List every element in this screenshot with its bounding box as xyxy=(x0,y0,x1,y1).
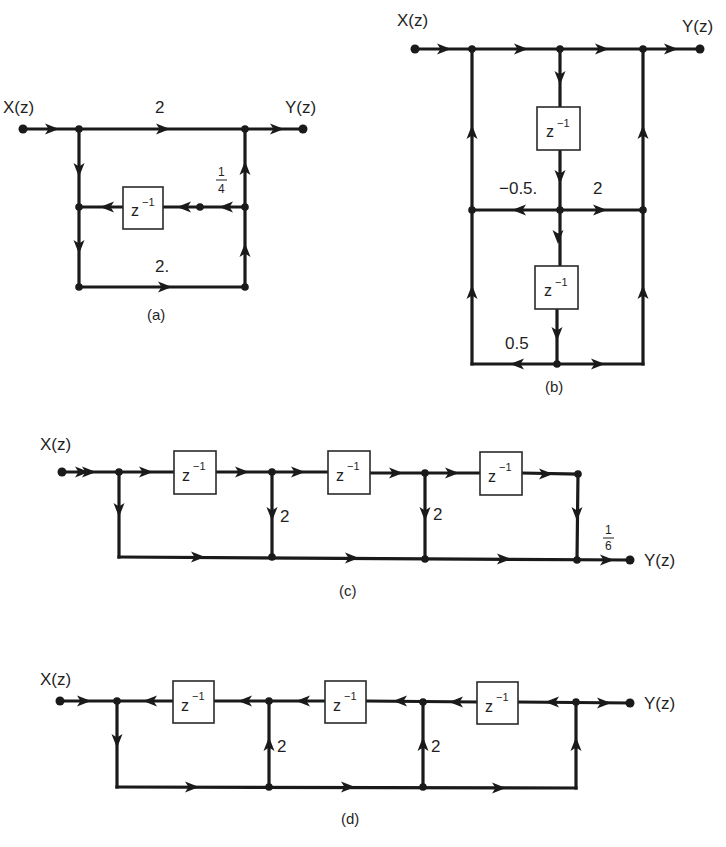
input-label: X(z) xyxy=(3,98,34,117)
input-label: X(z) xyxy=(397,11,428,30)
svg-text:−1: −1 xyxy=(193,460,206,472)
delay-block-b2: z −1 xyxy=(535,266,578,309)
svg-text:z: z xyxy=(333,697,341,714)
gain-label: 2 xyxy=(155,98,164,117)
svg-text:z: z xyxy=(544,282,552,299)
branch-node xyxy=(574,470,582,478)
branch-node xyxy=(75,283,83,291)
branch-node xyxy=(113,697,121,705)
branch-node xyxy=(196,203,204,211)
output-label: Y(z) xyxy=(285,98,316,117)
output-node xyxy=(626,699,635,708)
svg-text:−1: −1 xyxy=(555,276,568,288)
diagram-d: z −1 z −1 z −1 xyxy=(40,670,675,827)
svg-text:−1: −1 xyxy=(192,690,205,702)
delay-exponent: −1 xyxy=(142,196,155,208)
branch-node xyxy=(419,698,427,706)
diagram-b: z −1 z −1 X(z) xyxy=(397,11,713,395)
output-label: Y(z) xyxy=(682,17,713,36)
branch-node xyxy=(75,203,83,211)
input-label: X(z) xyxy=(40,435,71,454)
branch-node xyxy=(265,783,273,791)
arrow-down-icon xyxy=(553,230,564,244)
svg-text:−1: −1 xyxy=(499,461,512,473)
delay-block-d2: z −1 xyxy=(325,681,366,723)
branch-node xyxy=(573,556,581,564)
delay-base: z xyxy=(131,202,139,219)
svg-text:1: 1 xyxy=(605,523,612,537)
svg-text:z: z xyxy=(182,467,190,484)
svg-text:z: z xyxy=(546,123,554,140)
branch-node xyxy=(268,553,276,561)
branch-node xyxy=(421,469,429,477)
diagram-a: z −1 X(z) Y(z) 2 2. 1 4 ( xyxy=(3,98,316,323)
gain-label: 2 xyxy=(431,737,440,756)
branch-node xyxy=(419,783,427,791)
branch-node xyxy=(265,697,273,705)
delay-block-c1: z −1 xyxy=(174,451,216,494)
output-node xyxy=(299,125,308,134)
output-node xyxy=(696,45,705,54)
branch-node xyxy=(572,698,580,706)
svg-text:4: 4 xyxy=(218,182,225,196)
branch-node xyxy=(115,468,123,476)
branch-node xyxy=(241,125,249,133)
diagram-caption: (d) xyxy=(341,810,359,827)
svg-text:−1: −1 xyxy=(344,690,357,702)
gain-label: 0.5 xyxy=(505,334,529,353)
input-node xyxy=(411,45,420,54)
diagram-caption: (c) xyxy=(339,582,357,599)
svg-text:−1: −1 xyxy=(347,460,360,472)
gain-label: 2 xyxy=(433,505,442,524)
svg-text:6: 6 xyxy=(605,539,612,553)
branch-node xyxy=(468,206,476,214)
branch-node xyxy=(75,125,83,133)
diagram-caption: (a) xyxy=(147,306,165,323)
svg-text:z: z xyxy=(336,467,344,484)
gain-label: 2 xyxy=(277,737,286,756)
svg-text:z: z xyxy=(181,697,189,714)
svg-text:z: z xyxy=(488,468,496,485)
svg-text:z: z xyxy=(485,698,493,715)
gain-label: 2. xyxy=(155,257,169,276)
gain-fraction: 1 6 xyxy=(603,523,614,553)
gain-fraction: 1 4 xyxy=(216,165,227,196)
output-node xyxy=(626,556,635,565)
gain-label: 2 xyxy=(593,179,602,198)
delay-block-c3: z −1 xyxy=(480,452,522,495)
diagram-caption: (b) xyxy=(545,378,563,395)
svg-text:−1: −1 xyxy=(496,691,509,703)
branch-node xyxy=(639,206,647,214)
delay-block-a: z −1 xyxy=(123,187,163,229)
svg-text:−1: −1 xyxy=(557,117,570,129)
output-label: Y(z) xyxy=(644,551,675,570)
output-label: Y(z) xyxy=(644,694,675,713)
branch-node xyxy=(556,206,564,214)
branch-node xyxy=(421,555,429,563)
branch-node xyxy=(468,45,476,53)
branch-node xyxy=(639,45,647,53)
svg-text:1: 1 xyxy=(218,165,225,179)
gain-label: −0.5. xyxy=(499,179,537,198)
delay-block-b1: z −1 xyxy=(537,107,580,150)
diagram-c: z −1 z −1 z −1 xyxy=(40,435,675,599)
branch-node xyxy=(553,360,561,368)
branch-node xyxy=(241,203,249,211)
branch-node xyxy=(268,468,276,476)
input-node xyxy=(19,125,28,134)
signal-flow-graph-figure: z −1 X(z) Y(z) 2 2. 1 4 ( xyxy=(0,0,726,847)
branch-node xyxy=(241,283,249,291)
delay-block-d3: z −1 xyxy=(477,682,518,724)
delay-block-c2: z −1 xyxy=(328,451,370,494)
input-label: X(z) xyxy=(40,670,71,689)
delay-block-d1: z −1 xyxy=(173,681,214,723)
input-node xyxy=(58,468,67,477)
input-node xyxy=(56,697,65,706)
branch-node xyxy=(556,45,564,53)
gain-label: 2 xyxy=(280,507,289,526)
